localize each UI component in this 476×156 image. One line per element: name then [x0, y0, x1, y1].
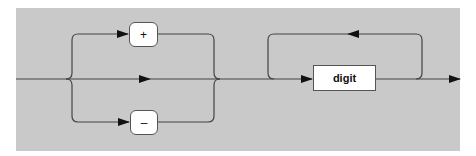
terminal-minus-label: – [141, 116, 148, 130]
railroad-wires [0, 0, 476, 156]
terminal-minus: – [130, 110, 158, 135]
left-brace-top [66, 34, 78, 79]
left-brace-bottom [66, 79, 78, 122]
terminal-plus: + [129, 22, 158, 47]
top-branch-out [158, 34, 220, 79]
nonterminal-digit-label: digit [333, 72, 356, 84]
bottom-branch-out [158, 79, 220, 122]
terminal-plus-label: + [140, 28, 147, 42]
nonterminal-digit: digit [313, 65, 376, 91]
